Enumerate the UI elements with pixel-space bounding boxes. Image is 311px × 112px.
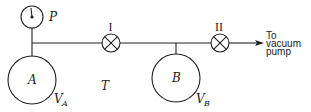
gauge-pivot [30,15,33,18]
valve-ii: II [211,20,229,52]
gauge-label: P [48,10,58,24]
vessel-b-label: B [171,71,181,85]
tube-label: T [101,79,110,93]
valve-i: I [102,20,120,52]
vessel-a-label: A [27,73,37,87]
vessel-b-volume-sub: B [203,99,210,108]
valve-ii-label: II [215,20,223,34]
outlet-line-3: pump [266,46,291,57]
valve-i-label: I [109,20,113,34]
outlet-label: To vacuum pump [266,30,301,57]
vessel-a: A V A [8,56,68,108]
vessel-a-volume-sub: A [61,99,68,108]
vessel-b: B V B [152,43,210,108]
pressure-gauge: P [21,6,58,28]
apparatus-diagram: P A V A I T B V B II To vacuum p [0,0,311,112]
